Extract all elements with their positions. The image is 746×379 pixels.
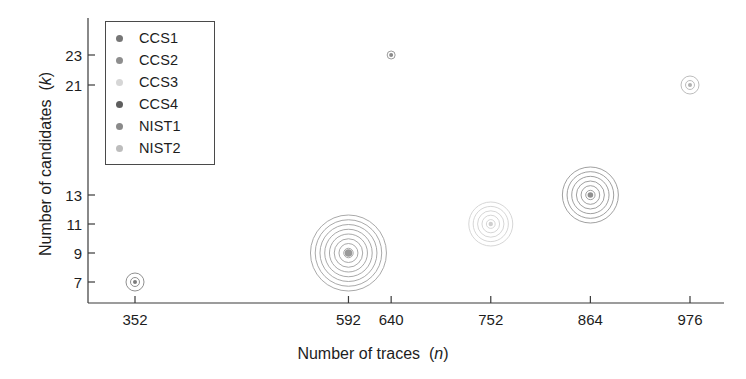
legend-item-label: CCS3 bbox=[139, 74, 178, 90]
legend-item-nist2[interactable]: NIST2 bbox=[106, 137, 214, 159]
y-tick-label: 13 bbox=[58, 187, 82, 204]
legend-item-label: NIST1 bbox=[139, 118, 181, 134]
marker-center-dot bbox=[588, 192, 594, 198]
data-point-marker bbox=[562, 167, 618, 223]
data-point-marker bbox=[126, 273, 144, 291]
legend-item-label: CCS2 bbox=[139, 52, 178, 68]
legend-marker-icon bbox=[116, 57, 123, 64]
legend-marker-icon bbox=[116, 35, 123, 42]
legend-marker-icon bbox=[116, 79, 123, 86]
x-tick-label: 752 bbox=[478, 311, 503, 328]
y-axis-label: Number of candidates (k) bbox=[37, 14, 55, 314]
y-axis-label-text: Number of candidates bbox=[37, 100, 54, 257]
data-point-marker bbox=[387, 51, 395, 59]
y-axis-variable: k bbox=[37, 77, 54, 85]
x-axis-label-paren: (n) bbox=[425, 345, 449, 362]
marker-center-dot bbox=[489, 222, 493, 226]
legend-item-ccs2[interactable]: CCS2 bbox=[106, 49, 214, 71]
y-tick-marks bbox=[88, 55, 95, 282]
y-tick-label: 21 bbox=[58, 77, 82, 94]
legend-marker-icon bbox=[116, 145, 123, 152]
y-tick-label: 11 bbox=[58, 216, 82, 233]
x-axis-label: Number of traces (n) bbox=[0, 345, 746, 363]
y-tick-label: 9 bbox=[58, 245, 82, 262]
marker-center-dot bbox=[688, 83, 692, 87]
legend-item-label: NIST2 bbox=[139, 140, 181, 156]
x-tick-label: 640 bbox=[379, 311, 404, 328]
y-axis-label-paren: (k) bbox=[37, 72, 54, 95]
data-point-marker bbox=[469, 202, 513, 246]
legend-item-ccs3[interactable]: CCS3 bbox=[106, 71, 214, 93]
legend-item-label: CCS1 bbox=[139, 30, 178, 46]
x-axis-variable: n bbox=[434, 345, 443, 362]
y-tick-label: 23 bbox=[58, 47, 82, 64]
legend-item-ccs1[interactable]: CCS1 bbox=[106, 27, 214, 49]
legend-marker-icon bbox=[116, 123, 123, 130]
x-tick-marks bbox=[135, 296, 690, 303]
x-tick-label: 976 bbox=[677, 311, 702, 328]
legend-item-nist1[interactable]: NIST1 bbox=[106, 115, 214, 137]
x-axis-label-text: Number of traces bbox=[297, 345, 420, 362]
x-tick-label: 864 bbox=[578, 311, 603, 328]
marker-center-dot bbox=[133, 280, 137, 284]
legend-item-ccs4[interactable]: CCS4 bbox=[106, 93, 214, 115]
x-tick-label: 352 bbox=[122, 311, 147, 328]
legend-item-label: CCS4 bbox=[139, 96, 178, 112]
legend-marker-icon bbox=[116, 101, 123, 108]
data-point-marker bbox=[310, 215, 386, 291]
marker-center-dot bbox=[389, 53, 393, 57]
y-tick-label: 7 bbox=[58, 274, 82, 291]
legend-box: CCS1CCS2CCS3CCS4NIST1NIST2 bbox=[105, 21, 215, 165]
data-point-marker bbox=[681, 76, 699, 94]
x-tick-label: 592 bbox=[336, 311, 361, 328]
marker-center-dot bbox=[345, 249, 353, 257]
scatter-chart-figure: 352592640752864976 7911132123 Number of … bbox=[0, 0, 746, 379]
